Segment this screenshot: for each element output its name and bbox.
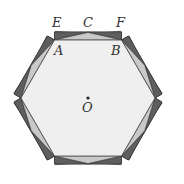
label-F: F: [115, 15, 126, 30]
label-A: A: [53, 43, 63, 58]
hexagon-diagram: E C F A B O: [0, 0, 184, 184]
label-E: E: [51, 15, 62, 30]
label-B: B: [110, 43, 121, 58]
label-C: C: [83, 15, 93, 30]
label-O: O: [82, 100, 93, 115]
hexagon-figure: [9, 27, 166, 169]
